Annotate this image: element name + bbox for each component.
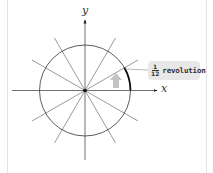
fraction: 1 12 (151, 64, 159, 78)
origin-point (83, 89, 87, 93)
x-axis-label: x (161, 82, 167, 95)
callout-text: revolution (162, 66, 205, 75)
highlighted-arc (124, 68, 130, 91)
fraction-numerator: 1 (153, 64, 157, 70)
revolution-callout: 1 12 revolution (148, 61, 200, 80)
callout-leader (125, 69, 148, 70)
unit-circle-diagram (0, 0, 213, 173)
y-axis-label: y (82, 4, 88, 17)
fraction-denominator: 12 (151, 71, 159, 77)
